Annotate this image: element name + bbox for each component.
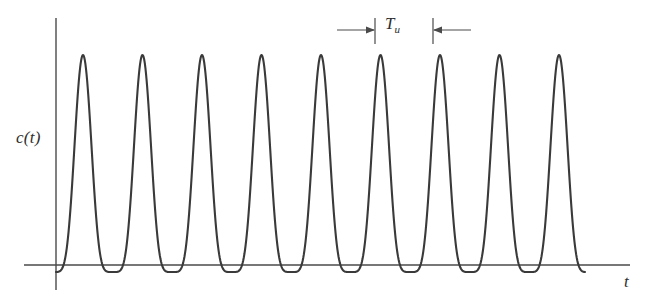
plot-canvas bbox=[0, 0, 648, 308]
waveform-curve bbox=[56, 55, 585, 272]
period-arrow-right-head bbox=[433, 27, 442, 34]
period-label-subscript: u bbox=[394, 23, 400, 35]
period-label: Tu bbox=[385, 14, 400, 35]
axes-group bbox=[24, 18, 630, 290]
waveform-figure: c(t) t Tu bbox=[0, 0, 648, 308]
period-marker bbox=[337, 18, 471, 44]
y-axis-label: c(t) bbox=[16, 128, 41, 148]
period-arrow-left-head bbox=[366, 27, 375, 34]
x-axis-label: t bbox=[624, 272, 629, 292]
